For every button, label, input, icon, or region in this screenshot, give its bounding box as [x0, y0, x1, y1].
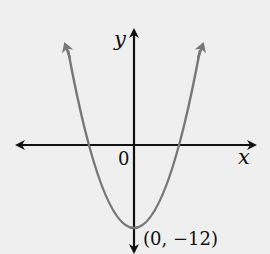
- graph: y x 0 (0, −12): [0, 0, 270, 254]
- x-axis-label: x: [238, 145, 250, 169]
- vertex-label: (0, −12): [143, 228, 218, 249]
- y-axis-label: y: [113, 27, 127, 51]
- origin-label: 0: [118, 148, 129, 169]
